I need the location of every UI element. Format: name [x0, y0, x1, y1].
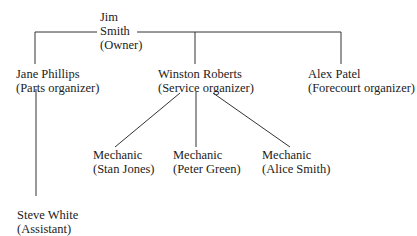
- mechanic-title: Mechanic: [173, 148, 241, 162]
- parts-node: Jane Phillips (Parts organizer): [16, 67, 99, 95]
- owner-to-parts-line: [35, 32, 97, 64]
- owner-role: (Owner): [100, 38, 142, 52]
- service-role: (Service organizer): [158, 81, 254, 95]
- owner-name-last: Smith: [100, 24, 142, 38]
- mechanic-name: (Stan Jones): [93, 162, 154, 176]
- mechanic-node: Mechanic (Stan Jones): [93, 148, 154, 176]
- mechanic-title: Mechanic: [93, 148, 154, 162]
- mechanic-name: (Alice Smith): [262, 162, 330, 176]
- owner-name-first: Jim: [100, 10, 142, 24]
- org-chart: Jim Smith (Owner) Jane Phillips (Parts o…: [0, 0, 417, 236]
- forecourt-role: (Forecourt organizer): [308, 81, 415, 95]
- service-to-mech1-line: [115, 93, 180, 147]
- mechanic-node: Mechanic (Peter Green): [173, 148, 241, 176]
- mechanic-name: (Peter Green): [173, 162, 241, 176]
- connector-lines: [0, 0, 417, 236]
- assistant-role: (Assistant): [17, 222, 78, 236]
- mechanic-node: Mechanic (Alice Smith): [262, 148, 330, 176]
- mechanic-title: Mechanic: [262, 148, 330, 162]
- parts-role: (Parts organizer): [16, 81, 99, 95]
- forecourt-name: Alex Patel: [308, 67, 415, 81]
- service-node: Winston Roberts (Service organizer): [158, 67, 254, 95]
- parts-name: Jane Phillips: [16, 67, 99, 81]
- assistant-node: Steve White (Assistant): [17, 208, 78, 236]
- assistant-name: Steve White: [17, 208, 78, 222]
- service-name: Winston Roberts: [158, 67, 254, 81]
- forecourt-node: Alex Patel (Forecourt organizer): [308, 67, 415, 95]
- service-to-mech3-line: [213, 93, 290, 147]
- owner-node: Jim Smith (Owner): [100, 10, 142, 52]
